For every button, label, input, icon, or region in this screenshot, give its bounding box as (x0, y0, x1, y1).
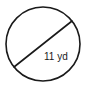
geometry-figure: 11 yd (0, 0, 92, 89)
circle-diagram-svg: 11 yd (0, 0, 92, 89)
diameter-length-label: 11 yd (44, 51, 68, 62)
